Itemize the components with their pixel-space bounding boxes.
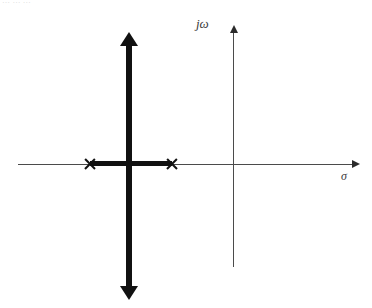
- root-locus-figure: … … … σ jω: [0, 0, 372, 308]
- imaginary-axis-label: jω: [196, 17, 209, 31]
- real-axis-arrow-icon: [352, 160, 360, 168]
- pole-marker-left-x-icon: [83, 157, 97, 171]
- arrowhead-down-icon: [120, 286, 138, 300]
- real-axis-label: σ: [341, 169, 347, 183]
- imaginary-axis-line: [233, 32, 234, 267]
- arrowhead-up-icon: [120, 32, 138, 46]
- imaginary-axis-arrow-icon: [230, 25, 238, 33]
- vertical-locus-branch: [126, 44, 132, 288]
- real-axis-line: [18, 164, 354, 165]
- clipped-header-text: … … …: [2, 0, 122, 5]
- pole-marker-right-x-icon: [165, 157, 179, 171]
